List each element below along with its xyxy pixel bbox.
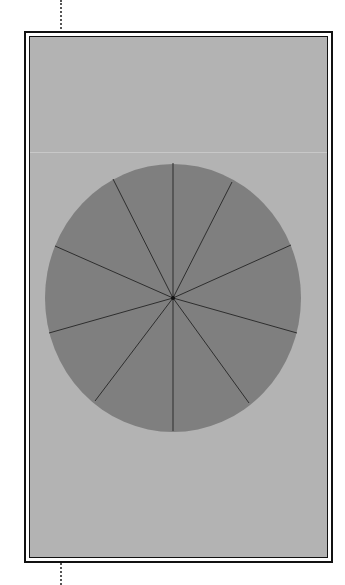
pie-diagram: [0, 0, 345, 585]
pie-center-dot: [171, 296, 175, 300]
